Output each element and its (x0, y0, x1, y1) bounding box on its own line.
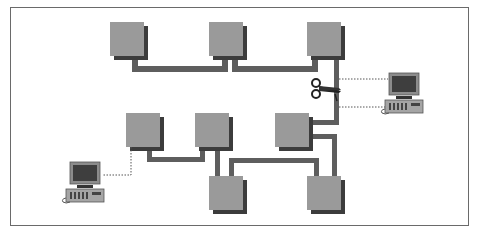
hub-2[interactable] (209, 22, 247, 60)
hub-8[interactable] (307, 176, 345, 214)
network-diagram (0, 0, 480, 234)
hub-4[interactable] (126, 113, 164, 151)
hub-5[interactable] (195, 113, 233, 151)
hub-7[interactable] (209, 176, 247, 214)
computer-icon[interactable] (62, 162, 104, 203)
hub-3[interactable] (307, 22, 345, 60)
hub-6[interactable] (275, 113, 313, 151)
hub-1[interactable] (110, 22, 148, 60)
